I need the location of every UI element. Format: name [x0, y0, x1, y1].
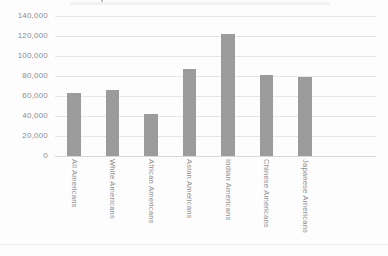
y-axis-tick-label: 0	[8, 151, 48, 161]
plot-area: 020,00040,00060,00080,000100,000120,0001…	[0, 0, 388, 256]
x-axis-category-label: Chinese Americans	[261, 159, 271, 228]
bar-african-americans	[144, 114, 158, 156]
gridline	[55, 96, 376, 97]
x-axis-line	[55, 156, 376, 157]
y-axis-tick-label: 40,000	[8, 111, 48, 121]
y-axis-tick-label: 100,000	[8, 51, 48, 61]
gridline	[55, 36, 376, 37]
bar-chinese-americans	[260, 75, 274, 156]
gridline	[55, 136, 376, 137]
gridline	[55, 116, 376, 117]
scan-artifact-bottom	[0, 244, 388, 245]
bar-japanese-americans	[298, 77, 312, 156]
gridline	[55, 56, 376, 57]
x-axis-category-label: Japanese Americans	[300, 159, 310, 233]
y-axis-tick-label: 140,000	[8, 11, 48, 21]
bar-asian-americans	[183, 69, 197, 156]
bar-indian-americans	[221, 34, 235, 156]
y-axis-tick-label: 20,000	[8, 131, 48, 141]
bar-chart: 020,00040,00060,00080,000100,000120,0001…	[0, 0, 388, 256]
x-axis-category-label: Asian Americans	[184, 159, 194, 219]
x-axis-category-label: Indian Americans	[223, 159, 233, 220]
bar-white-americans	[106, 90, 120, 156]
scan-artifact-top	[70, 2, 330, 5]
x-axis-category-label: African Americans	[146, 159, 156, 224]
y-axis-tick-label: 80,000	[8, 71, 48, 81]
gridline	[55, 76, 376, 77]
y-axis-tick-label: 60,000	[8, 91, 48, 101]
y-axis-tick-label: 120,000	[8, 31, 48, 41]
x-axis-category-label: All Americans	[69, 159, 79, 208]
bar-all-americans	[67, 93, 81, 156]
gridline	[55, 16, 376, 17]
x-axis-category-label: White Americans	[107, 159, 117, 219]
